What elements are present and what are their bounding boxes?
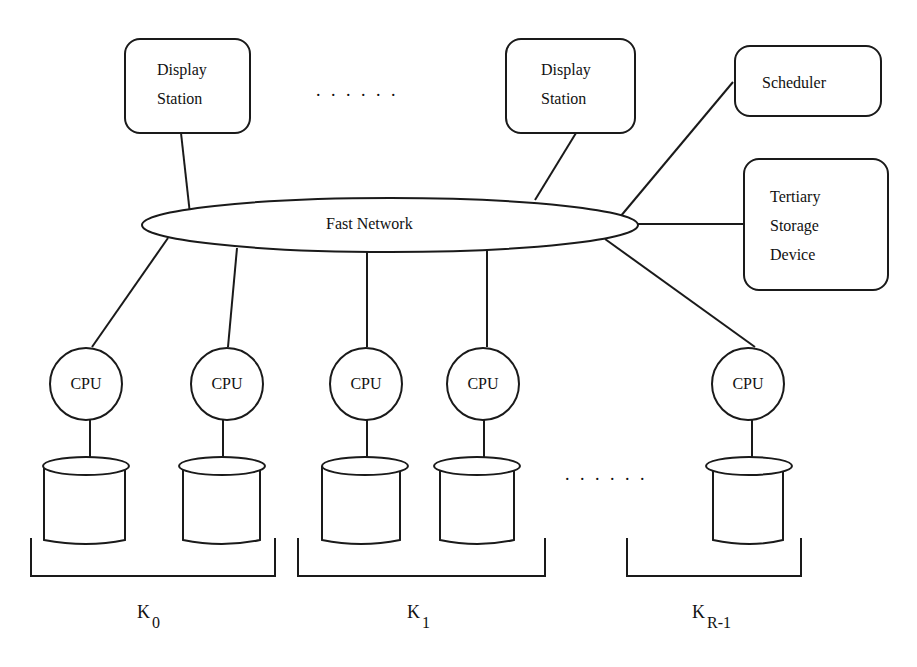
cluster-label-kr-1: KR-1 <box>692 602 731 623</box>
display-station-1-line1: Display <box>157 55 249 84</box>
display-station-2-line1: Display <box>541 55 634 84</box>
cluster-label-k1: K1 <box>407 602 430 623</box>
connector-scheduler <box>620 82 733 217</box>
tertiary-line2: Storage <box>770 211 887 240</box>
display-stations-ellipsis: . . . . . . <box>316 80 399 101</box>
scheduler-label: Scheduler <box>762 68 880 97</box>
cpu-label: CPU <box>330 375 402 393</box>
disk-cylinder <box>434 457 520 544</box>
scheduler-box: Scheduler <box>734 45 882 117</box>
display-station-1-line2: Station <box>157 84 249 113</box>
display-station-2: Display Station <box>505 38 636 134</box>
connector-cpu-5 <box>605 239 755 347</box>
connector-cpu-2 <box>228 248 237 347</box>
display-station-2-line2: Station <box>541 84 634 113</box>
disk-cylinder <box>322 457 408 544</box>
disk-cylinder <box>43 457 129 544</box>
tertiary-line1: Tertiary <box>770 182 887 211</box>
cpu-label: CPU <box>50 375 122 393</box>
tertiary-storage-device: Tertiary Storage Device <box>743 158 889 291</box>
disks-ellipsis: . . . . . . <box>565 464 648 485</box>
tertiary-line3: Device <box>770 240 887 269</box>
disk-cylinder <box>179 457 265 544</box>
display-station-1: Display Station <box>124 38 251 134</box>
cpu-label: CPU <box>447 375 519 393</box>
cpu-label: CPU <box>712 375 784 393</box>
cluster-bracket-k1 <box>298 538 545 576</box>
cluster-label-k0: K0 <box>137 602 160 623</box>
network-label: Fast Network <box>326 215 413 233</box>
connector-cpu-1 <box>92 238 168 347</box>
connector-display-1 <box>181 133 190 214</box>
connector-display-2 <box>535 133 576 200</box>
disk-cylinder <box>706 457 792 544</box>
cluster-bracket-kr-1 <box>627 538 801 576</box>
cpu-label: CPU <box>191 375 263 393</box>
